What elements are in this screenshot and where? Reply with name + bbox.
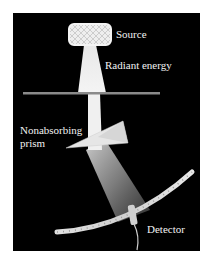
slit-plate xyxy=(23,92,160,95)
radiant-energy-label: Radiant energy xyxy=(105,59,172,71)
prism-label-line1: Nonabsorbing xyxy=(20,124,82,136)
source-box xyxy=(69,24,111,45)
diagram: Source Radiant energy Nonabsorbing prism… xyxy=(0,0,208,262)
prism-label-line2: prism xyxy=(20,137,45,149)
detector-label: Detector xyxy=(147,223,185,235)
source-label: Source xyxy=(116,28,147,40)
